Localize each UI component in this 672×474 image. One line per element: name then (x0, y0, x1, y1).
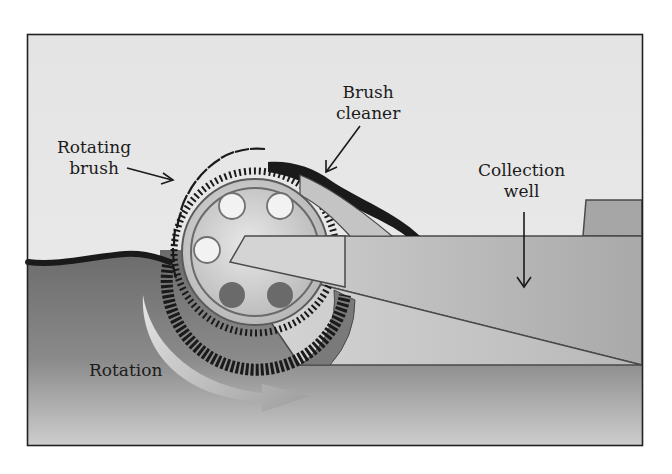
label-rotating-brush: Rotating brush (57, 137, 131, 179)
drum-hole-light (194, 237, 220, 263)
drum-hole-light (219, 193, 245, 219)
label-collection-well: Collection well (478, 160, 565, 202)
drum-hole-light (267, 193, 293, 219)
collection-well-block (583, 200, 642, 236)
diagram-canvas (0, 0, 672, 474)
water-body (28, 254, 165, 445)
label-brush-cleaner: Brush cleaner (336, 82, 400, 124)
drum-hole-dark (267, 282, 293, 308)
drum-hole-dark (219, 282, 245, 308)
label-rotation: Rotation (89, 360, 162, 381)
brush-skimmer-diagram: Rotating brush Brush cleaner Collection … (0, 0, 672, 474)
